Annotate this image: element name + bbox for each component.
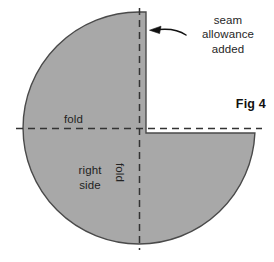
seam-allowance-line-3: added: [212, 43, 244, 55]
figure-caption: Fig 4: [236, 97, 266, 112]
seam-allowance-line-2: allowance: [202, 28, 254, 40]
right-side-label: right side: [62, 163, 118, 193]
figure-diagram: seam allowance added Fig 4 fold right si…: [0, 0, 274, 262]
right-side-line-2: side: [79, 179, 101, 191]
right-side-line-1: right: [79, 164, 102, 176]
seam-allowance-label: seam allowance added: [186, 18, 270, 57]
seam-allowance-line-1: seam: [186, 18, 270, 27]
fold-label-horizontal: fold: [64, 113, 83, 127]
curved-arrow-icon: [150, 26, 187, 35]
fold-label-vertical: fold: [112, 163, 126, 182]
